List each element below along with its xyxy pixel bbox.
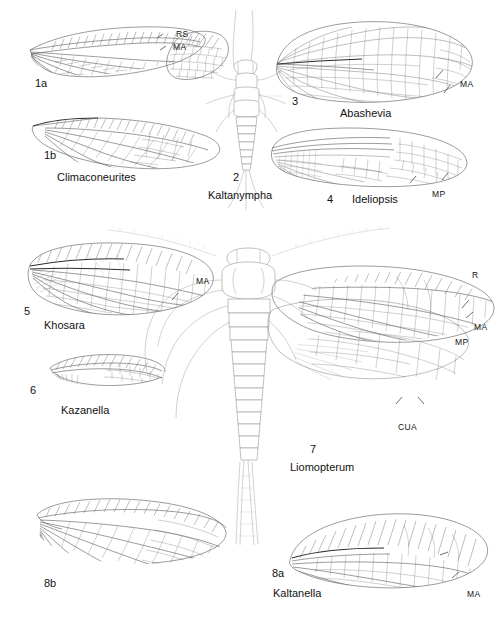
vein-label-ma-7: MA: [474, 323, 487, 332]
figure-8b-wing: [37, 499, 226, 603]
vein-label-mp-7: MP: [455, 338, 468, 347]
vein-label-cua-7: CUA: [398, 423, 417, 432]
figure-7-insect: [108, 226, 498, 545]
genus-name-khosara: Khosara: [44, 320, 85, 331]
vein-label-r-7: R: [472, 271, 478, 280]
vein-label-mp-4: MP: [432, 190, 445, 199]
figure-3-wing: [277, 22, 473, 116]
vein-label-ma-1a: MA: [173, 43, 186, 52]
genus-name-kaltanympha: Kaltanympha: [208, 190, 272, 201]
vein-label-ma-5: MA: [196, 277, 209, 286]
vein-label-ma-8a: MA: [467, 590, 480, 599]
genus-name-ideliopsis: Ideliopsis: [352, 194, 398, 205]
genus-name-liomopterum: Liomopterum: [290, 462, 354, 473]
illustration-plate: .s{fill:none;stroke:#4a4a4a;stroke-width…: [0, 0, 503, 620]
figure-number-2: 2: [233, 172, 239, 183]
figure-number-7: 7: [310, 444, 316, 455]
figure-number-5: 5: [24, 306, 30, 317]
vein-label-ma-3: MA: [460, 80, 473, 89]
figure-number-3: 3: [292, 96, 298, 107]
figure-1b-wing: [32, 118, 219, 173]
figure-number-1a: 1a: [35, 78, 47, 89]
figure-5-wing: [28, 243, 213, 317]
figure-number-1b: 1b: [44, 150, 56, 161]
genus-name-kaltanella: Kaltanella: [273, 588, 321, 599]
genus-name-climaconeurites: Climaconeurites: [57, 172, 136, 183]
figure-4-wing: [271, 128, 466, 188]
vein-label-rs-1a: RS: [176, 30, 188, 39]
genus-name-kazanella: Kazanella: [61, 405, 109, 416]
figure-2-nymph: [206, 10, 286, 210]
figure-1a-wing: [30, 27, 228, 101]
figure-number-8b: 8b: [44, 578, 56, 589]
figure-number-8a: 8a: [272, 568, 284, 579]
figure-number-4: 4: [327, 194, 333, 205]
genus-name-abashevia: Abashevia: [340, 108, 391, 119]
figure-number-6: 6: [30, 385, 36, 396]
